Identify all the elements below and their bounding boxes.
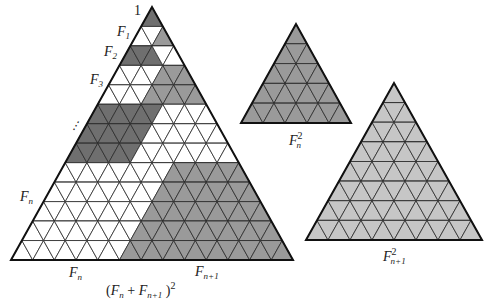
label-fn-bottom: Fn [69, 266, 82, 282]
label-fn-squared: F2n [289, 131, 301, 150]
grid-cell [141, 7, 163, 26]
label-sum-square: (Fn + Fn+1 )2 [106, 281, 175, 300]
label-fn1-bottom: Fn+1 [195, 265, 219, 281]
label-apex-one: 1 [134, 4, 141, 18]
label-f1: F1 [117, 25, 130, 41]
triangle-fn-squared [241, 24, 351, 123]
label-fn1-squared: F2n+1 [383, 247, 406, 266]
label-f3: F3 [90, 73, 103, 89]
label-f2: F2 [104, 45, 117, 61]
label-fn-side: Fn [20, 190, 33, 206]
grid-cell [285, 24, 307, 44]
main-triangle-sum-square [11, 7, 293, 260]
grid-cell [383, 83, 405, 103]
